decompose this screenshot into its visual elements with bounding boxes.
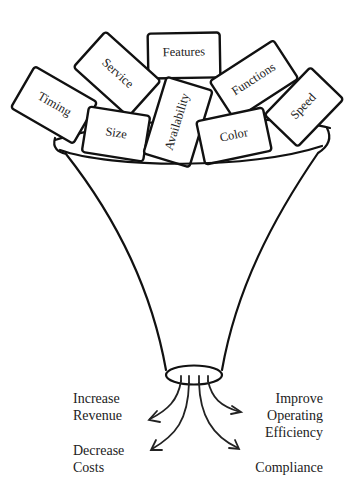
- output-line: Improve: [265, 390, 323, 407]
- output-line: Efficiency: [265, 424, 323, 441]
- arrow-increase-revenue: [149, 381, 181, 422]
- card-color: Color: [196, 107, 272, 164]
- arrow-decrease-costs: [151, 383, 189, 450]
- output-line: Increase: [73, 390, 122, 407]
- output-line: Compliance: [255, 459, 323, 476]
- arrow-compliance: [199, 383, 239, 449]
- output-line: Revenue: [73, 407, 122, 424]
- output-compliance: Compliance: [255, 459, 323, 476]
- output-line: Costs: [73, 459, 124, 476]
- output-line: Operating: [265, 407, 323, 424]
- arrow-improve-efficiency: [208, 381, 241, 414]
- card-size: Size: [82, 106, 150, 161]
- output-improve-efficiency: Improve Operating Efficiency: [265, 390, 323, 441]
- output-line: Decrease: [73, 442, 124, 459]
- card-features: Features: [148, 32, 221, 78]
- output-increase-revenue: Increase Revenue: [73, 390, 122, 424]
- funnel-spout: [166, 366, 222, 385]
- output-decrease-costs: Decrease Costs: [73, 442, 124, 476]
- card-features-label: Features: [163, 45, 206, 60]
